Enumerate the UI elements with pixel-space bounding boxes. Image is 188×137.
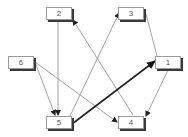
edge-6-5 <box>35 62 55 115</box>
node-2[interactable]: 2 <box>46 7 72 20</box>
node-1[interactable]: 1 <box>155 56 181 69</box>
node-6[interactable]: 6 <box>8 56 34 69</box>
node-1-label: 1 <box>166 58 170 67</box>
node-2-label: 2 <box>57 9 61 18</box>
node-4-label: 4 <box>129 118 133 127</box>
edge-6-4 <box>35 62 117 122</box>
node-3[interactable]: 3 <box>118 7 144 20</box>
graph-diagram: 1 2 3 4 5 6 <box>0 0 188 137</box>
edge-5-3 <box>70 13 119 116</box>
edge-3-1 <box>146 14 157 56</box>
node-5-label: 5 <box>57 118 61 127</box>
edge-1-4 <box>146 70 168 116</box>
node-3-label: 3 <box>129 9 133 18</box>
node-6-label: 6 <box>19 58 23 67</box>
edge-5-1-emphasized <box>72 61 155 124</box>
node-4[interactable]: 4 <box>118 116 144 129</box>
node-5[interactable]: 5 <box>46 116 72 129</box>
